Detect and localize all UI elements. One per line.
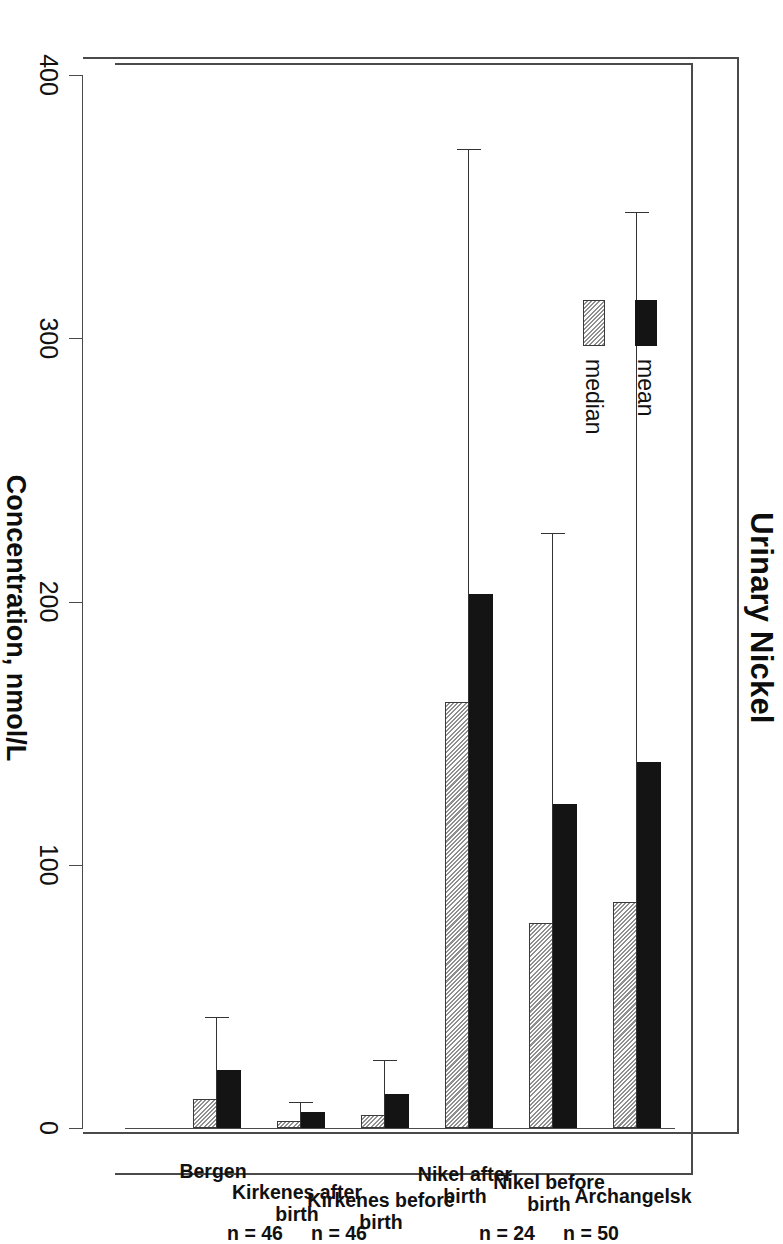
value-axis-tick-label: 100 (34, 844, 63, 886)
error-bar-cap-1 (541, 533, 565, 534)
y-axis-title: Concentration, nmol/L (0, 0, 31, 1236)
error-bar-cap-4 (289, 1102, 313, 1103)
error-bar-stem-4 (300, 1102, 301, 1128)
error-bar-stem-3 (384, 1060, 385, 1128)
value-axis-tick-label: 0 (34, 1121, 63, 1135)
sample-size-label-1: n = 24 (479, 1222, 535, 1244)
sample-size-label-0: n = 50 (563, 1222, 619, 1244)
value-axis-tick (69, 602, 83, 603)
bar-mean-3 (385, 1094, 409, 1128)
legend-item-mean: mean (629, 300, 663, 417)
bar-mean-0 (637, 762, 661, 1128)
value-axis-tick-label: 400 (34, 54, 63, 96)
legend-label-mean: mean (633, 359, 660, 417)
value-axis-tick (69, 75, 83, 76)
error-bar-cap-3 (373, 1060, 397, 1061)
legend-label-median: median (581, 359, 608, 434)
mean-swatch-icon (635, 300, 657, 346)
bar-median-0 (613, 902, 637, 1128)
error-bar-cap-2 (457, 149, 481, 150)
value-axis-tick-label: 300 (34, 317, 63, 359)
value-axis-tick (69, 1128, 83, 1129)
bar-median-2 (445, 702, 469, 1128)
value-axis-tick (69, 338, 83, 339)
error-bar-stem-2 (468, 149, 469, 1128)
chart-title: Urinary Nickel (743, 0, 779, 1236)
bar-mean-2 (469, 594, 493, 1128)
bar-median-3 (361, 1115, 385, 1128)
value-axis-tick-label: 200 (34, 581, 63, 623)
sample-size-label-4: n = 46 (227, 1222, 283, 1244)
sample-size-label-3: n = 46 (311, 1222, 367, 1244)
median-swatch-icon (583, 300, 605, 346)
bar-mean-5 (217, 1070, 241, 1128)
error-bar-cap-5 (205, 1017, 229, 1018)
category-label-5: Bergen (179, 1160, 246, 1182)
bar-mean-1 (553, 804, 577, 1128)
error-bar-cap-0 (625, 212, 649, 213)
bar-median-4 (277, 1121, 301, 1128)
bar-median-5 (193, 1099, 217, 1128)
legend-item-median: median (577, 300, 611, 434)
error-bar-stem-5 (216, 1017, 217, 1128)
category-label-4: Kirkenes after birth (232, 1181, 362, 1226)
error-bar-stem-1 (552, 533, 553, 1128)
value-axis-tick (69, 865, 83, 866)
bar-median-1 (529, 923, 553, 1128)
bar-mean-4 (301, 1112, 325, 1128)
chart-legend: mean median (543, 300, 663, 500)
